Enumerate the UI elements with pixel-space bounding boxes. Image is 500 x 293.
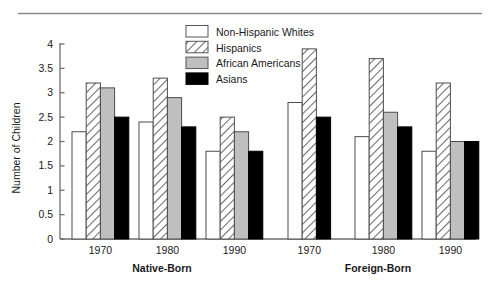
bar [100,88,114,239]
bar [355,137,369,239]
x-tick-label: 1970 [298,244,322,256]
bar [465,142,479,240]
legend-label: African Americans [216,57,301,69]
y-tick-label: 2.5 [38,111,53,123]
bar [139,122,153,239]
bar [220,117,234,239]
y-tick-label: 0 [47,233,53,245]
legend-label: Hispanics [216,42,262,54]
bar [302,49,316,239]
y-tick-label: 0.5 [38,208,53,220]
y-tick-label: 3 [47,86,53,98]
x-tick-label: 1990 [439,244,463,256]
x-tick-label: 1980 [156,244,180,256]
bar [398,127,412,239]
bar [86,83,100,239]
y-tick-label: 3.5 [38,62,53,74]
legend-swatch-white [186,26,208,38]
y-tick-label: 4 [47,38,53,50]
bar [369,59,383,239]
legend-swatch-gray [186,57,208,69]
bar [450,142,464,240]
bar [182,127,196,239]
group-label: Native-Born [132,262,192,274]
bar [72,132,86,239]
x-tick-label: 1990 [223,244,247,256]
x-tick-label: 1970 [89,244,113,256]
y-tick-label: 1 [47,184,53,196]
bar [167,98,181,239]
bar [383,112,397,239]
legend-swatch-black [186,73,208,85]
bar [422,151,436,239]
bar [206,151,220,239]
bar [316,117,330,239]
x-tick-label: 1980 [372,244,396,256]
bar-chart-figure: Non-Hispanic WhitesHispanicsAfrican Amer… [0,0,500,293]
group-label: Foreign-Born [345,262,412,274]
legend-label: Asians [216,73,248,85]
y-tick-label: 1.5 [38,159,53,171]
bar [249,151,263,239]
bar [153,78,167,239]
legend-swatch-hatched [186,41,208,53]
bar [115,117,129,239]
bar [288,103,302,240]
bar [234,132,248,239]
y-tick-label: 2 [47,135,53,147]
bar [436,83,450,239]
y-axis-label: Number of Children [10,102,22,193]
legend-label: Non-Hispanic Whites [216,26,314,38]
